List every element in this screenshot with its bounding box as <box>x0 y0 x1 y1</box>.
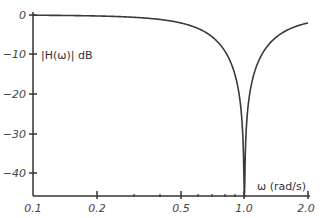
x-tick-label-0.2: 0.2 <box>88 202 106 215</box>
y-tick-label-minus30: −30 <box>3 128 26 141</box>
x-tick-label-2.0: 2.0 <box>297 202 315 215</box>
notch-filter-chart: 0 −10 −20 −30 −40 0.1 0.2 0.5 1.0 2.0 |H… <box>0 0 320 218</box>
x-tick-label-1.0: 1.0 <box>235 202 253 215</box>
y-tick-label-minus10: −10 <box>3 48 26 61</box>
y-tick-label-minus40: −40 <box>3 167 26 180</box>
x-axis-title: ω (rad/s) <box>257 180 306 193</box>
y-tick-label-0: 0 <box>19 9 26 22</box>
magnitude-response-curve <box>33 15 308 196</box>
y-axis-title: |H(ω)| dB <box>41 49 93 62</box>
y-tick-label-minus20: −20 <box>3 88 26 101</box>
x-tick-label-0.1: 0.1 <box>24 202 42 215</box>
x-tick-label-0.5: 0.5 <box>172 202 190 215</box>
